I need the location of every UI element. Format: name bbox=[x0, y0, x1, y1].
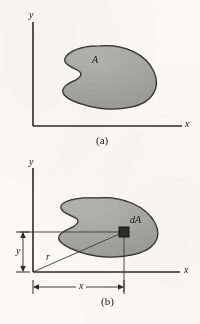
panel-a-caption: (a) bbox=[96, 135, 108, 146]
panel-a-y-axis-label: y bbox=[29, 10, 33, 20]
panel-a-area-highlight bbox=[63, 46, 156, 109]
panel-b-x-axis-label: x bbox=[184, 265, 188, 275]
panel-b-y-dim-arrow-up bbox=[20, 232, 26, 238]
panel-b-x-dimension-label: x bbox=[76, 281, 86, 291]
panel-b-y-axis-label: y bbox=[29, 157, 33, 167]
panel-a-x-axis-label: x bbox=[185, 119, 189, 129]
panel-b-y-dimension-label: y bbox=[16, 246, 20, 256]
figure-container: y x A (a) y x dA r y x (b) bbox=[0, 0, 200, 324]
panel-b-area-highlight bbox=[59, 198, 158, 257]
panel-b-x-dim-arrow-left bbox=[33, 284, 39, 290]
panel-a-group bbox=[33, 22, 182, 126]
panel-b-radius-label: r bbox=[46, 252, 50, 262]
panel-b-element-label: dA bbox=[130, 215, 141, 225]
panel-b-y-dim-arrow-down bbox=[20, 266, 26, 272]
panel-b-caption: (b) bbox=[101, 296, 114, 307]
panel-b-differential-element bbox=[119, 227, 129, 237]
panel-b-group bbox=[16, 168, 180, 294]
panel-b-x-dim-arrow-right bbox=[118, 284, 124, 290]
panel-a-area-label: A bbox=[92, 55, 98, 65]
